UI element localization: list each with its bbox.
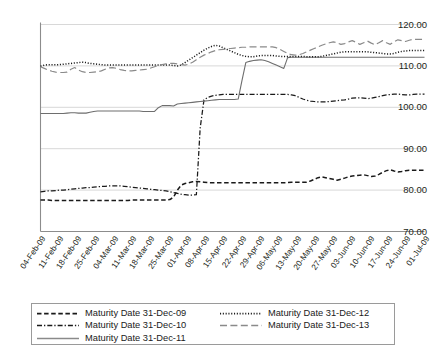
legend-row: Maturity Date 31-Dec-09Maturity Date 31-… — [36, 307, 390, 320]
plot-area: 70.0080.0090.00100.00110.00120.00 04-Feb… — [0, 0, 427, 300]
legend-line-sample-icon — [219, 320, 263, 331]
legend-label: Maturity Date 31-Dec-09 — [85, 308, 186, 319]
y-axis-tick-label: 100.00 — [391, 102, 428, 112]
legend-item: Maturity Date 31-Dec-10 — [36, 320, 219, 333]
series-line-1 — [41, 94, 425, 195]
series-line-0 — [41, 170, 425, 201]
legend-line-sample-icon — [36, 308, 80, 319]
legend-label: Maturity Date 31-Dec-13 — [268, 320, 369, 331]
legend-label: Maturity Date 31-Dec-11 — [85, 333, 186, 344]
legend-label: Maturity Date 31-Dec-12 — [268, 308, 369, 319]
y-axis-tick-label: 90.00 — [391, 144, 428, 154]
legend-row: Maturity Date 31-Dec-10Maturity Date 31-… — [36, 320, 390, 333]
legend-label: Maturity Date 31-Dec-10 — [85, 320, 186, 331]
legend-item: Maturity Date 31-Dec-11 — [36, 332, 222, 345]
y-axis-tick-label: 120.00 — [391, 20, 428, 30]
legend-item: Maturity Date 31-Dec-09 — [36, 307, 219, 320]
legend-row: Maturity Date 31-Dec-11 — [36, 332, 390, 345]
series-line-4 — [41, 39, 425, 72]
y-axis-tick-label: 70.00 — [391, 227, 428, 237]
y-axis-tick-label: 80.00 — [391, 185, 428, 195]
legend-line-sample-icon — [36, 320, 80, 331]
legend-item: Maturity Date 31-Dec-12 — [219, 307, 390, 320]
legend-line-sample-icon — [36, 333, 80, 344]
chart-legend: Maturity Date 31-Dec-09Maturity Date 31-… — [31, 303, 395, 345]
legend-line-sample-icon — [219, 308, 263, 319]
legend-item: Maturity Date 31-Dec-13 — [219, 320, 390, 333]
y-axis-tick-label: 110.00 — [391, 61, 428, 71]
